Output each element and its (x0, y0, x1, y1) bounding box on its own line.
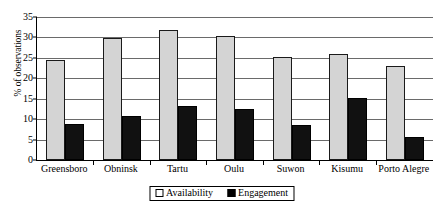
bar-availability (159, 30, 178, 160)
legend-label: Availability (166, 188, 213, 198)
y-axis-tick-label: 30 (23, 32, 33, 42)
bar-engagement (235, 109, 254, 160)
plot-area: 05101520253035 (36, 17, 433, 161)
x-axis-label-3: Oulu (206, 163, 263, 174)
bar-engagement (65, 124, 84, 160)
x-axis-label-0: Greensboro (36, 163, 93, 174)
bars-layer (37, 17, 433, 160)
bar-engagement (405, 137, 424, 160)
bar-group (94, 17, 151, 160)
bar-engagement (292, 125, 311, 160)
legend-swatch-icon (155, 189, 163, 197)
bar-group (207, 17, 264, 160)
x-axis-labels: GreensboroObninskTartuOuluSuwonKisumuPor… (36, 163, 432, 174)
x-axis-label-4: Suwon (262, 163, 319, 174)
bar-chart: % of observations 05101520253035 Greensb… (0, 0, 443, 217)
bar-group (263, 17, 320, 160)
legend-item-availability: Availability (155, 188, 213, 198)
bar-availability (103, 38, 122, 160)
legend-label: Engagement (238, 188, 288, 198)
bar-engagement (178, 106, 197, 160)
legend-swatch-icon (227, 189, 235, 197)
y-axis-tick-label: 20 (23, 73, 33, 83)
bar-group (320, 17, 377, 160)
bar-group (376, 17, 433, 160)
bar-availability (273, 57, 292, 160)
bar-availability (329, 54, 348, 160)
bar-availability (216, 36, 235, 160)
legend-item-engagement: Engagement (227, 188, 288, 198)
y-axis-tick-label: 15 (23, 94, 33, 104)
bar-engagement (122, 116, 141, 160)
bar-availability (386, 66, 405, 160)
bar-group (150, 17, 207, 160)
x-axis-label-6: Porto Alegre (375, 163, 432, 174)
x-axis-label-1: Obninsk (93, 163, 150, 174)
y-axis-tick-label: 35 (23, 12, 33, 22)
y-axis-title: % of observations (13, 0, 23, 133)
y-axis-tick-label: 10 (23, 114, 33, 124)
x-axis-label-5: Kisumu (319, 163, 376, 174)
bar-group (37, 17, 94, 160)
x-axis-label-2: Tartu (149, 163, 206, 174)
bar-engagement (348, 98, 367, 160)
y-axis-tick-label: 25 (23, 53, 33, 63)
bar-availability (46, 60, 65, 160)
chart-legend: AvailabilityEngagement (149, 186, 294, 201)
